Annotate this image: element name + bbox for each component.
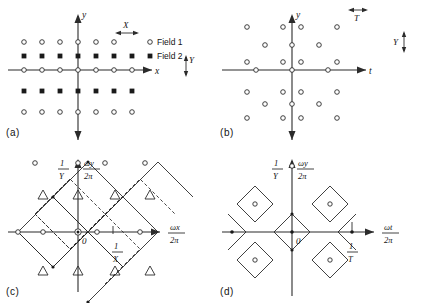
lattice-marker-sample (245, 25, 250, 30)
spectrum-replica-dot (230, 230, 234, 234)
panel-b-label: (b) (220, 127, 234, 138)
lattice-marker-sample (245, 60, 250, 65)
lattice-marker-sample (299, 60, 304, 65)
lattice-marker-field2 (94, 89, 99, 94)
spectrum-replica-circle (143, 161, 148, 166)
lattice-marker-sample-offset (263, 43, 268, 48)
lattice-marker-field1 (58, 110, 63, 115)
panel-a: x y (6, 10, 195, 140)
panel-c-tick-inv-Y-numerator: 1 (60, 158, 64, 168)
lattice-marker-sample (281, 25, 286, 30)
lattice-marker-field1 (112, 110, 117, 115)
panel-b-t-dimension: T (348, 8, 368, 23)
legend-label-field2: Field 2 (157, 51, 183, 61)
y-dimension-arrowhead-top (184, 55, 188, 61)
lattice-marker-field2 (76, 89, 81, 94)
panel-d-tick-inv-T: 1 T (347, 222, 358, 264)
panel-b-axes (222, 14, 366, 140)
lattice-marker-sample (281, 116, 286, 121)
panel-c-label: (c) (6, 286, 19, 297)
spectrum-replica-circle (328, 202, 332, 206)
spectrum-diamond-solid (123, 162, 193, 197)
lattice-marker-sample (335, 60, 340, 65)
spectrum-replica-circle (253, 258, 257, 262)
lattice-marker-field2 (112, 54, 117, 59)
legend-marker-field2-icon (148, 54, 153, 59)
y-dimension-label: Y (189, 55, 195, 65)
lattice-marker-field1 (94, 40, 99, 45)
panel-c-x-axis-numerator: ωx (170, 222, 180, 232)
spectrum-replica-triangle (145, 266, 155, 275)
panel-b-y-arrowhead (289, 14, 296, 23)
spectrum-replica-circle (138, 230, 143, 235)
lattice-marker-sample (335, 116, 340, 121)
panel-c-x-axis-denominator: 2π (170, 235, 179, 245)
spectrum-node-dot (290, 248, 293, 251)
t-dimension-label: T (354, 13, 360, 23)
spectrum-node-dot (86, 160, 89, 163)
panel-d-y-axis-replica-circle (290, 164, 295, 169)
spectrum-replica-circle (16, 230, 21, 235)
lattice-marker-sample-offset (290, 43, 295, 48)
spectrum-node-dot (290, 212, 293, 215)
lattice-marker-sample (290, 68, 295, 73)
panel-c-tick-inv-Y-denominator: Y (59, 171, 65, 181)
panel-d: ωt 2π ωy 2π 1 Y 1 T 0 (d) (220, 158, 399, 297)
lattice-marker-field1 (94, 110, 99, 115)
panel-c-origin-label: 0 (82, 236, 87, 246)
lattice-marker-sample (245, 90, 250, 95)
figure-container: x y (0, 0, 429, 303)
lattice-marker-sample (299, 25, 304, 30)
spectrum-replica-circle (76, 161, 81, 166)
lattice-marker-sample (335, 25, 340, 30)
panel-a-x-axis-label: x (154, 66, 160, 76)
panel-a-legend: Field 1 Field 2 (148, 37, 183, 61)
spectrum-replica-triangle (38, 190, 48, 199)
lattice-marker-sample-offset (263, 102, 268, 107)
panel-a-y-arrowhead (75, 14, 82, 23)
panel-c-y-axis-fraction-label: ωy 2π (83, 158, 100, 181)
four-panel-figure: x y (0, 0, 429, 303)
lattice-marker-field1 (40, 40, 45, 45)
panel-a-y-axis-lower-tip (75, 131, 82, 140)
y-dimension-arrowhead-top (402, 31, 406, 37)
spectrum-replica-circle (41, 230, 46, 235)
lattice-marker-field1 (112, 40, 117, 45)
lattice-marker-field1 (22, 110, 27, 115)
panel-d-y-axis-denominator: 2π (298, 171, 307, 181)
spectrum-replica-origin-dot (77, 231, 80, 234)
panel-c: ωx 2π ωy 2π 1 Y 1 X (6, 158, 193, 303)
lattice-marker-field2 (94, 54, 99, 59)
panel-c-tick-inv-X-denominator: X (112, 254, 119, 264)
panel-a-label: (a) (6, 127, 20, 138)
panel-d-origin-label: 0 (296, 236, 301, 246)
legend-label-field1: Field 1 (157, 37, 183, 47)
y-dimension-arrowhead-bottom (184, 71, 188, 77)
lattice-marker-field1 (130, 68, 135, 73)
panel-d-tick-inv-Y-denominator: Y (273, 171, 279, 181)
panel-d-tick-inv-Y-numerator: 1 (274, 158, 278, 168)
panel-b-y-axis-label: y (295, 10, 301, 20)
panel-d-x-axis-fraction-label: ωt 2π (382, 222, 399, 245)
lattice-marker-field1 (22, 40, 27, 45)
panel-c-tick-inv-Y: 1 Y (58, 158, 69, 181)
lattice-marker-field1 (40, 68, 45, 73)
lattice-marker-field1 (40, 110, 45, 115)
spectrum-diamond-dashed (105, 179, 175, 214)
panel-d-label: (d) (220, 286, 234, 297)
lattice-marker-sample (281, 60, 286, 65)
panel-b-x-axis-label: t (369, 66, 372, 76)
lattice-marker-field1 (112, 68, 117, 73)
lattice-marker-field1 (58, 40, 63, 45)
panel-d-tick-inv-Y: 1 Y (272, 158, 283, 181)
panel-c-y-axis-denominator: 2π (84, 171, 93, 181)
lattice-marker-field2 (22, 89, 27, 94)
panel-a-y-axis-label: y (81, 10, 87, 20)
panel-b-x-arrowhead (357, 67, 366, 74)
lattice-marker-field2 (40, 54, 45, 59)
lattice-marker-sample (254, 68, 259, 73)
spectrum-replica-circle (328, 258, 332, 262)
lattice-marker-sample (326, 68, 331, 73)
spectrum-replica-circle (95, 230, 100, 235)
spectrum-diamond-solid (18, 232, 53, 267)
